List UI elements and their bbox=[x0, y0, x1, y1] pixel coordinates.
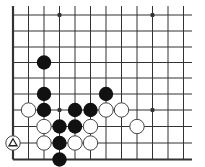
black-stone bbox=[37, 55, 51, 69]
white-stone bbox=[68, 136, 82, 150]
black-stone bbox=[37, 87, 51, 101]
star-point bbox=[57, 13, 61, 17]
white-stone bbox=[83, 119, 97, 133]
black-stone bbox=[52, 119, 66, 133]
go-board bbox=[0, 0, 205, 167]
black-stone bbox=[37, 103, 51, 117]
white-stone bbox=[83, 136, 97, 150]
white-stone bbox=[130, 119, 144, 133]
white-stone bbox=[37, 119, 51, 133]
star-point bbox=[150, 108, 154, 112]
white-stone bbox=[37, 136, 51, 150]
black-stone bbox=[52, 152, 66, 166]
white-stone bbox=[114, 103, 128, 117]
board-background bbox=[0, 0, 205, 167]
white-stone bbox=[21, 103, 35, 117]
black-stone bbox=[68, 119, 82, 133]
black-stone bbox=[83, 103, 97, 117]
black-stone bbox=[99, 87, 113, 101]
star-point bbox=[150, 13, 154, 17]
black-stone bbox=[68, 103, 82, 117]
star-point bbox=[57, 108, 61, 112]
black-stone bbox=[52, 136, 66, 150]
white-stone bbox=[99, 103, 113, 117]
